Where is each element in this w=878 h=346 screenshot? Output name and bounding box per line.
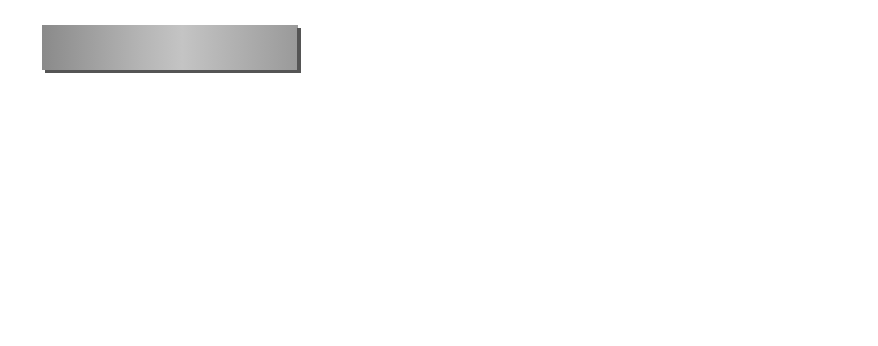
interface-layer-full — [42, 25, 297, 70]
